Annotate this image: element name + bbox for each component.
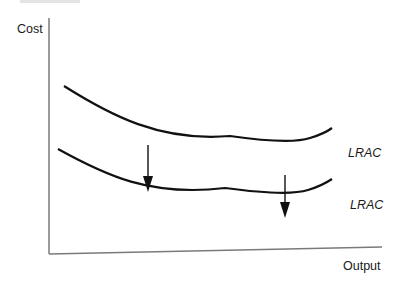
curve-label-upper: LRAC [348, 146, 382, 160]
lrac-curve-lower [58, 149, 332, 193]
arrowhead-right-icon [280, 202, 290, 218]
lrac-curve-upper [64, 86, 332, 141]
y-axis-label: Cost [17, 22, 43, 36]
x-axis-label: Output [343, 259, 381, 273]
curve-label-lower: LRAC [350, 198, 384, 212]
lrac-shift-diagram: Cost Output LRAC LRAC [0, 0, 403, 285]
x-axis [49, 247, 382, 254]
